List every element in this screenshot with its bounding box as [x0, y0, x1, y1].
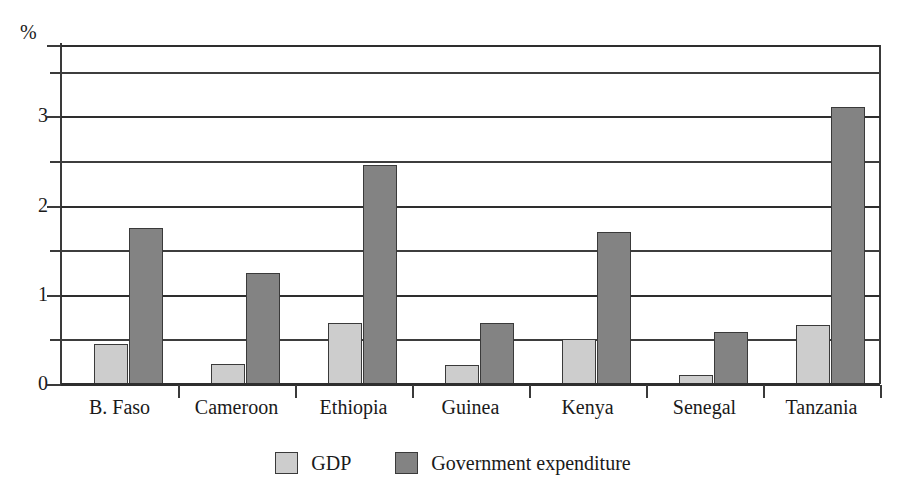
- y-tick-mark-2: [47, 206, 60, 208]
- bar-chart-figure: % 0 1 2 3 B. FasoCameroonEthiopiaGuineaK…: [0, 0, 906, 501]
- gridline-major-1: [61, 295, 880, 297]
- bar-guinea-gdp: [445, 365, 479, 384]
- bar-cameroon-gdp: [211, 364, 245, 384]
- bar-b-faso-government-expenditure: [129, 228, 163, 384]
- gridline-top: [61, 45, 880, 47]
- zero-axis-line: [61, 383, 880, 385]
- y-tick-mark-minor-1: [50, 250, 60, 252]
- gridline-minor-1: [61, 250, 880, 252]
- y-tick-mark-minor-2: [50, 161, 60, 163]
- bar-kenya-government-expenditure: [597, 232, 631, 384]
- y-tick-mark-3: [47, 116, 60, 118]
- gridline-major-3: [61, 116, 880, 118]
- bar-tanzania-government-expenditure: [831, 107, 865, 384]
- bar-ethiopia-gdp: [328, 323, 362, 384]
- legend-item-government-expenditure: Government expenditure: [395, 452, 630, 474]
- y-tick-label-1: 1: [14, 284, 48, 304]
- dark-gray-swatch-icon: [395, 452, 418, 474]
- y-tick-mark-minor-3: [50, 72, 60, 74]
- gridline-minor-0: [61, 339, 880, 341]
- bar-kenya-gdp: [562, 339, 596, 384]
- y-tick-mark-0: [47, 384, 60, 386]
- y-tick-mark-minor-0: [50, 339, 60, 341]
- category-label-senegal: Senegal: [646, 396, 763, 418]
- legend-label-gdp: GDP: [311, 453, 351, 473]
- y-tick-label-3: 3: [14, 105, 48, 125]
- plot-right-edge: [879, 45, 881, 384]
- gridline-minor-3: [61, 72, 880, 74]
- category-label-tanzania: Tanzania: [763, 396, 880, 418]
- chart-legend: GDP Government expenditure: [0, 452, 906, 474]
- bar-tanzania-gdp: [796, 325, 830, 384]
- category-label-ethiopia: Ethiopia: [295, 396, 412, 418]
- bar-b-faso-gdp: [94, 344, 128, 384]
- y-tick-mark-1: [47, 295, 60, 297]
- y-tick-label-0: 0: [14, 373, 48, 393]
- bar-cameroon-government-expenditure: [246, 273, 280, 385]
- bar-guinea-government-expenditure: [480, 323, 514, 384]
- gridline-minor-2: [61, 161, 880, 163]
- category-label-b-faso: B. Faso: [61, 396, 178, 418]
- legend-label-government-expenditure: Government expenditure: [431, 453, 630, 473]
- y-axis-unit-label: %: [20, 22, 37, 42]
- category-label-cameroon: Cameroon: [178, 396, 295, 418]
- legend-item-gdp: GDP: [275, 452, 351, 474]
- y-tick-mark-top: [47, 45, 60, 47]
- category-label-kenya: Kenya: [529, 396, 646, 418]
- category-tick-mark-7: [880, 385, 882, 398]
- category-label-guinea: Guinea: [412, 396, 529, 418]
- y-tick-label-2: 2: [14, 195, 48, 215]
- bar-senegal-government-expenditure: [714, 332, 748, 384]
- light-gray-swatch-icon: [275, 452, 298, 474]
- bar-ethiopia-government-expenditure: [363, 165, 397, 384]
- plot-area: [61, 45, 880, 384]
- gridline-major-2: [61, 206, 880, 208]
